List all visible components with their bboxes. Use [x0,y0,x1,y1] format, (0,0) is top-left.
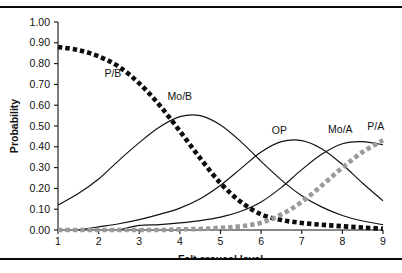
y-tick-label: 1.00 [30,16,51,28]
x-tick-label: 2 [96,235,102,247]
y-tick-label: 0.30 [30,161,51,173]
x-tick-label: 1 [55,235,61,247]
y-tick-label: 0.20 [30,182,51,194]
x-tick-label: 8 [339,235,345,247]
series-label-mo-a: Mo/A [328,123,353,135]
x-tick-label: 5 [218,235,224,247]
series-curve-mo-a [119,142,383,230]
x-tick-label: 4 [177,235,183,247]
figure-bottom-rule [0,258,402,260]
y-tick-label: 0.90 [30,36,51,48]
series-curve-op [78,140,383,230]
y-tick-label: 0.40 [30,140,51,152]
x-axis-tick-labels: 123456789 [55,235,386,247]
y-tick-label: 0.60 [30,99,51,111]
x-axis-title: Felt arousal level [178,253,263,258]
y-axis-title: Probability [8,99,20,153]
x-tick-label: 9 [380,235,386,247]
y-tick-label: 0.00 [30,224,51,236]
y-axis-tick-labels: 0.000.100.200.300.400.500.600.700.800.90… [30,16,51,236]
y-tick-label: 0.50 [30,120,51,132]
x-tick-label: 6 [258,235,264,247]
series-label-op: OP [272,124,287,136]
chart-plot-area: 0.000.100.200.300.400.500.600.700.800.90… [0,8,402,258]
series-label-p-b: P/B [104,67,121,79]
figure-container: 0.000.100.200.300.400.500.600.700.800.90… [0,0,402,273]
series-inline-labels: P/BMo/BOPMo/AP/A [104,67,384,136]
x-tick-label: 3 [136,235,142,247]
series-label-p-a: P/A [367,120,384,132]
y-tick-label: 0.70 [30,78,51,90]
y-tick-label: 0.10 [30,203,51,215]
y-tick-label: 0.80 [30,57,51,69]
probability-vs-arousal-line-chart: 0.000.100.200.300.400.500.600.700.800.90… [0,8,402,258]
x-tick-label: 7 [299,235,305,247]
series-label-mo-b: Mo/B [168,90,193,102]
